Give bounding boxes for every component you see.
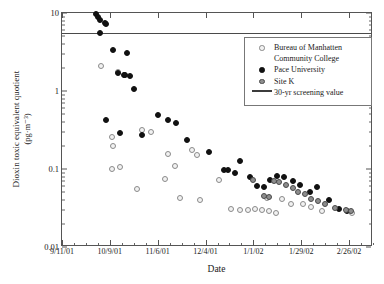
data-point-bmcc: [177, 195, 183, 201]
data-point-bmcc: [109, 166, 115, 172]
data-point-bmcc: [266, 208, 272, 214]
dioxin-teq-scatter-figure: Dioxin toxic equivalent quotient (pg·m⁻³…: [0, 0, 384, 284]
data-point-bmcc: [117, 164, 123, 170]
x-tick-label: 9/11/01: [50, 248, 74, 256]
y-minor-tick-mark: [62, 94, 65, 95]
legend-label-bmcc: Bureau of Manhatten Community College: [274, 43, 366, 64]
y-axis-title: Dioxin toxic equivalent quotient (pg·m⁻³…: [11, 12, 25, 246]
y-minor-tick-mark: [62, 145, 65, 146]
data-point-bmcc: [165, 151, 171, 157]
x-axis-title: Date: [61, 264, 372, 274]
data-point-bmcc: [308, 204, 314, 210]
data-point-pace: [184, 137, 190, 143]
x-minor-tick-mark: [325, 243, 326, 246]
data-point-bmcc: [259, 207, 265, 213]
x-tick-mark-top: [349, 13, 350, 18]
y-minor-tick-mark: [62, 53, 65, 54]
x-tick-label: 12/4/01: [193, 248, 217, 256]
data-point-pace: [314, 184, 320, 190]
y-minor-tick-mark: [369, 172, 372, 173]
legend-item-pace: Pace University: [250, 65, 366, 76]
data-point-bmcc: [109, 134, 115, 140]
data-point-bmcc: [300, 201, 306, 207]
data-point-pace: [110, 47, 116, 53]
y-minor-tick-mark: [369, 30, 372, 31]
data-point-bmcc: [252, 206, 258, 212]
x-tick-mark-top: [253, 13, 254, 18]
y-minor-tick-mark: [62, 20, 65, 21]
y-minor-tick-mark: [369, 223, 372, 224]
y-minor-tick-mark: [369, 209, 372, 210]
data-point-sitek: [302, 191, 308, 197]
x-tick-mark: [206, 240, 207, 245]
data-point-sitek: [348, 208, 354, 214]
data-point-bmcc: [288, 201, 294, 207]
x-minor-tick-mark: [146, 243, 147, 246]
data-point-pace: [97, 30, 103, 36]
data-point-sitek: [332, 205, 338, 211]
x-tick-mark: [158, 240, 159, 245]
data-point-pace: [297, 182, 303, 188]
y-minor-tick-mark: [62, 172, 65, 173]
legend-item-sitek: Site K: [250, 77, 366, 88]
y-minor-tick-mark: [62, 44, 65, 45]
data-point-pace: [127, 73, 133, 79]
legend-marker-line-icon: [250, 88, 274, 91]
x-minor-tick-mark: [229, 243, 230, 246]
data-point-bmcc: [279, 196, 285, 202]
y-tick-mark: [62, 169, 67, 170]
y-minor-tick-mark: [62, 200, 65, 201]
chart-legend: Bureau of Manhatten Community College Pa…: [244, 37, 372, 106]
x-minor-tick-mark: [182, 243, 183, 246]
y-minor-tick-mark: [62, 98, 65, 99]
x-tick-mark-top: [158, 13, 159, 18]
x-tick-mark: [349, 240, 350, 245]
x-tick-mark: [253, 240, 254, 245]
x-minor-tick-mark: [74, 243, 75, 246]
x-tick-mark-top: [206, 13, 207, 18]
data-point-sitek: [295, 189, 301, 195]
data-point-sitek: [250, 177, 256, 183]
data-point-bmcc: [162, 176, 168, 182]
data-point-bmcc: [273, 210, 279, 216]
x-minor-tick-mark: [361, 243, 362, 246]
data-point-sitek: [266, 194, 272, 200]
data-point-sitek: [322, 201, 328, 207]
y-minor-tick-mark: [62, 186, 65, 187]
y-minor-tick-mark: [369, 181, 372, 182]
x-minor-tick-mark: [313, 243, 314, 246]
y-tick-label: 1: [55, 87, 59, 96]
y-minor-tick-mark: [62, 36, 65, 37]
y-minor-tick-mark: [369, 20, 372, 21]
x-minor-tick-mark: [122, 243, 123, 246]
data-point-pace: [103, 21, 109, 27]
x-minor-tick-mark: [289, 243, 290, 246]
legend-label-pace: Pace University: [274, 65, 366, 76]
y-minor-tick-mark: [369, 16, 372, 17]
data-point-sitek: [315, 198, 321, 204]
legend-marker-filled-circle-icon: [250, 65, 274, 73]
y-minor-tick-mark: [369, 25, 372, 26]
y-tick-label: 0.1: [48, 165, 59, 174]
y-minor-tick-mark: [62, 114, 65, 115]
x-minor-tick-mark: [265, 243, 266, 246]
y-minor-tick-mark: [62, 67, 65, 68]
x-minor-tick-mark: [218, 243, 219, 246]
y-minor-tick-mark: [62, 192, 65, 193]
x-minor-tick-mark: [241, 243, 242, 246]
x-minor-tick-mark: [277, 243, 278, 246]
data-point-bmcc: [148, 129, 154, 135]
x-tick-label: 1/29/02: [289, 248, 313, 256]
x-tick-mark: [301, 240, 302, 245]
y-minor-tick-mark: [62, 25, 65, 26]
x-minor-tick-mark: [98, 243, 99, 246]
x-tick-mark-top: [110, 13, 111, 18]
x-minor-tick-mark: [194, 243, 195, 246]
x-minor-tick-mark: [373, 243, 374, 246]
x-tick-label: 1/1/02: [243, 248, 263, 256]
x-tick-mark: [62, 240, 63, 245]
y-minor-tick-mark: [369, 145, 372, 146]
y-minor-tick-mark: [62, 223, 65, 224]
data-point-bmcc: [194, 152, 200, 158]
data-point-pace: [173, 120, 179, 126]
